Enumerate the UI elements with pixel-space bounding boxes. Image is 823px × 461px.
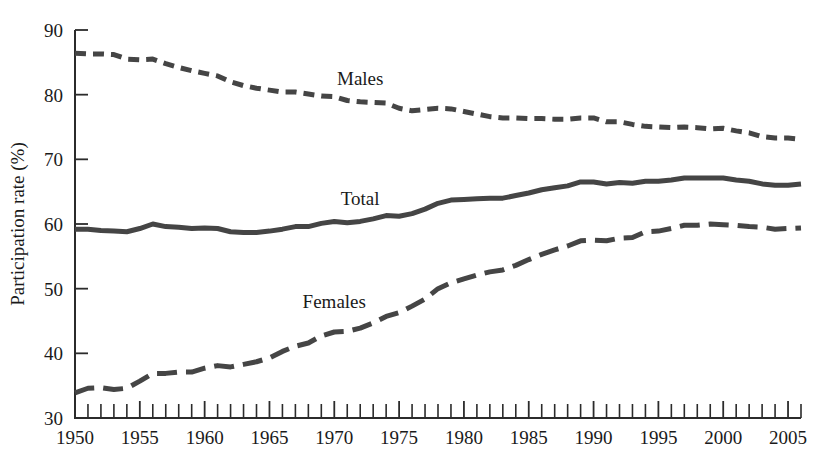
series-annotation-males: Males (337, 68, 383, 89)
y-tick-label-90: 90 (44, 20, 63, 41)
y-axis-title: Participation rate (%) (7, 142, 29, 306)
y-tick-label-80: 80 (44, 85, 63, 106)
y-tick-label-50: 50 (44, 279, 63, 300)
y-tick-label-60: 60 (44, 214, 63, 235)
x-tick-label-1985: 1985 (510, 427, 548, 448)
series-annotations: MalesTotalFemales (303, 68, 384, 312)
x-tick-label-1990: 1990 (575, 427, 613, 448)
x-tick-label-1960: 1960 (186, 427, 224, 448)
x-tick-label-2000: 2000 (704, 427, 742, 448)
x-tick-label-1995: 1995 (639, 427, 677, 448)
x-tick-label-1975: 1975 (380, 427, 418, 448)
x-axis-tick-labels: 1950195519601965197019751980198519901995… (56, 427, 807, 448)
x-axis-tick-marks (75, 401, 801, 418)
x-tick-label-1955: 1955 (121, 427, 159, 448)
participation-rate-chart: Participation rate (%) 30405060708090 19… (0, 0, 823, 461)
series-annotation-females: Females (303, 291, 366, 312)
x-tick-label-1965: 1965 (250, 427, 288, 448)
y-axis-tick-marks (75, 30, 88, 418)
y-tick-label-40: 40 (44, 343, 63, 364)
y-axis-tick-labels: 30405060708090 (44, 20, 63, 429)
series-annotation-total: Total (341, 188, 380, 209)
y-tick-label-30: 30 (44, 408, 63, 429)
x-tick-label-1980: 1980 (445, 427, 483, 448)
y-tick-label-70: 70 (44, 149, 63, 170)
series-line-males (75, 53, 801, 139)
x-tick-label-2005: 2005 (769, 427, 807, 448)
x-tick-label-1970: 1970 (315, 427, 353, 448)
series-line-females (75, 224, 801, 393)
chart-canvas: Participation rate (%) 30405060708090 19… (0, 0, 823, 461)
series-lines (75, 53, 801, 393)
x-tick-label-1950: 1950 (56, 427, 94, 448)
y-axis-title-group: Participation rate (%) (7, 142, 29, 306)
